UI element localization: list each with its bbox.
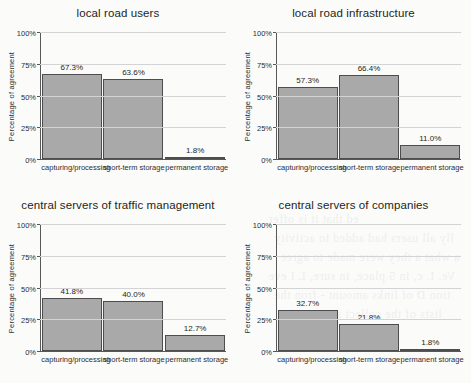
x-axis-category-label: short-term storage: [339, 355, 400, 364]
gridline: [40, 256, 226, 257]
gridline: [276, 127, 461, 128]
bar: 66.4%: [339, 75, 399, 159]
y-axis-label: Percentage of agreement: [6, 33, 18, 160]
gridline: [40, 319, 226, 320]
chart-title: local road users: [0, 7, 236, 19]
y-tick-mark: [37, 159, 40, 160]
x-axis-category-label: capturing/processing: [41, 163, 102, 172]
y-tick-label: 25%: [257, 316, 272, 325]
x-axis-line: [40, 351, 226, 352]
x-axis-category-label: capturing/processing: [277, 163, 338, 172]
y-tick-mark: [37, 288, 40, 289]
bar: 32.7%: [278, 310, 338, 351]
y-tick-mark: [273, 256, 276, 257]
x-axis-category-label: capturing/processing: [277, 355, 338, 364]
y-tick-label: 50%: [21, 284, 36, 293]
bar-value-label: 63.6%: [122, 68, 145, 77]
bar: 63.6%: [103, 79, 163, 159]
y-tick-mark: [273, 319, 276, 320]
bar-value-label: 11.0%: [419, 134, 441, 143]
bar: 12.7%: [165, 335, 225, 351]
y-tick-mark: [273, 351, 276, 352]
x-axis-category-label: short-term storage: [339, 163, 400, 172]
y-tick-mark: [37, 127, 40, 128]
x-axis-category-label: short-term storage: [103, 163, 164, 172]
y-tick-label: 0%: [25, 156, 36, 165]
chart-panel-local-road-users: local road users Percentage of agreement…: [0, 0, 236, 192]
y-tick-mark: [273, 127, 276, 128]
y-tick-label: 75%: [257, 60, 272, 69]
y-tick-label: 50%: [257, 284, 272, 293]
bar: 57.3%: [278, 87, 338, 159]
bar-value-label: 41.8%: [60, 287, 83, 296]
gridline: [276, 96, 461, 97]
x-axis-line: [276, 351, 461, 352]
gridline: [40, 32, 226, 33]
gridline: [40, 127, 226, 128]
y-tick-mark: [273, 64, 276, 65]
gridline: [276, 288, 461, 289]
y-tick-label: 100%: [253, 29, 272, 38]
y-tick-mark: [273, 96, 276, 97]
gridline: [40, 96, 226, 97]
plot-area: 57.3%66.4%11.0% 0%25%50%75%100%: [276, 33, 461, 160]
gridline: [40, 224, 226, 225]
y-tick-mark: [37, 319, 40, 320]
y-tick-mark: [37, 96, 40, 97]
bar-value-label: 1.8%: [421, 338, 439, 347]
x-axis-labels: capturing/processingshort-term storagepe…: [41, 163, 227, 172]
plot-area: 32.7%21.8%1.8% 0%25%50%75%100%: [276, 225, 461, 352]
gridline: [40, 288, 226, 289]
bar-value-label: 57.3%: [296, 76, 319, 85]
plot-area: 67.3%63.6%1.8% 0%25%50%75%100%: [40, 33, 226, 160]
y-tick-label: 0%: [25, 348, 36, 357]
y-tick-label: 25%: [21, 124, 36, 133]
y-tick-mark: [273, 224, 276, 225]
x-axis-category-label: capturing/processing: [41, 355, 102, 364]
y-tick-label: 75%: [21, 252, 36, 261]
y-tick-label: 100%: [17, 221, 36, 230]
y-tick-label: 100%: [253, 221, 272, 230]
x-axis-labels: capturing/processingshort-term storagepe…: [277, 355, 462, 364]
y-axis-label: Percentage of agreement: [242, 33, 254, 160]
chart-title: central servers of traffic management: [0, 199, 236, 211]
chart-panel-central-servers-companies: central servers of companies Percentage …: [236, 192, 471, 383]
gridline: [276, 64, 461, 65]
y-tick-mark: [37, 32, 40, 33]
y-tick-mark: [37, 351, 40, 352]
x-axis-labels: capturing/processingshort-term storagepe…: [277, 163, 462, 172]
bar: 1.8%: [400, 349, 460, 351]
y-tick-mark: [273, 32, 276, 33]
bar-value-label: 40.0%: [122, 290, 145, 299]
bar: 11.0%: [400, 145, 460, 159]
y-tick-label: 50%: [21, 92, 36, 101]
y-tick-label: 25%: [257, 124, 272, 133]
y-tick-label: 50%: [257, 92, 272, 101]
y-tick-mark: [273, 288, 276, 289]
bar: 41.8%: [42, 298, 102, 351]
x-axis-category-label: short-term storage: [103, 355, 164, 364]
bar-value-label: 1.8%: [186, 146, 204, 155]
bar: 1.8%: [165, 157, 225, 159]
bar-value-label: 32.7%: [296, 299, 319, 308]
bar: 67.3%: [42, 74, 102, 159]
y-axis-label: Percentage of agreement: [6, 225, 18, 352]
y-tick-label: 75%: [257, 252, 272, 261]
x-axis-category-label: permanent storage: [401, 163, 462, 172]
y-tick-mark: [37, 256, 40, 257]
y-tick-mark: [37, 64, 40, 65]
x-axis-category-label: permanent storage: [401, 355, 462, 364]
x-axis-category-label: permanent storage: [165, 163, 226, 172]
y-axis-label: Percentage of agreement: [242, 225, 254, 352]
bar: 21.8%: [339, 324, 399, 351]
x-axis-labels: capturing/processingshort-term storagepe…: [41, 355, 227, 364]
gridline: [276, 319, 461, 320]
y-tick-label: 0%: [261, 348, 272, 357]
bar-value-label: 12.7%: [184, 324, 207, 333]
y-tick-mark: [37, 224, 40, 225]
y-tick-label: 25%: [21, 316, 36, 325]
bar: 40.0%: [103, 301, 163, 351]
x-axis-line: [276, 159, 461, 160]
x-axis-category-label: permanent storage: [165, 355, 226, 364]
y-tick-label: 100%: [17, 29, 36, 38]
